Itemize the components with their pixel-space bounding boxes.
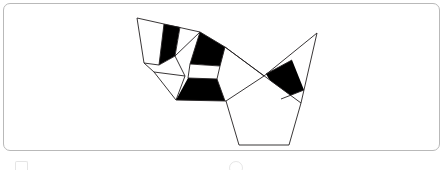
partial-circle-artifact-center (229, 161, 243, 170)
polyhedron-net-diagram (4, 4, 440, 151)
partial-icon-artifact-left (15, 161, 28, 170)
face-center-white-band (188, 64, 220, 79)
figure-panel (3, 3, 440, 151)
